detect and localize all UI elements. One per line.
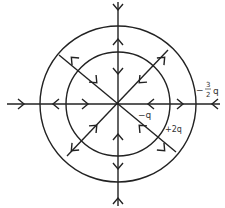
outer-shell-label-num: 3 [206,81,210,89]
outer-shell-label-den: 2 [206,91,210,99]
field-diagram: −q +2q − 3 2 q [0,0,225,208]
arrow-head-icon [139,125,147,133]
arrow-head-icon [157,143,165,151]
outer-shell-label-q: q [213,86,219,96]
arrow-head-icon [71,57,79,65]
inner-shell-label: +2q [165,125,182,134]
center-charge-label: −q [138,110,151,120]
outer-shell-label-sign: − [196,85,204,95]
arrow-head-icon [89,75,97,83]
